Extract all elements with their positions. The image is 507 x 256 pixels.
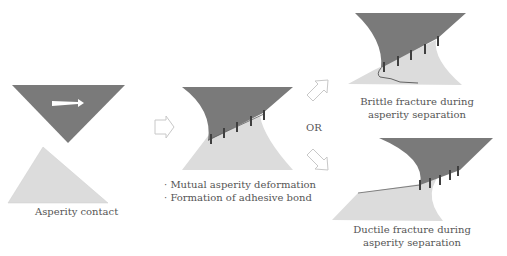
bullet-text: Formation of adhesive bond: [170, 192, 311, 203]
flow-arrow-down-icon: [307, 149, 328, 170]
bullet-char: ·: [164, 179, 167, 190]
flow-arrow-icon: [155, 116, 174, 138]
connector-or-label: OR: [306, 122, 322, 134]
upper-asperity: [12, 85, 125, 143]
caption-brittle-line-1: Brittle fracture during: [357, 96, 477, 108]
stage-ductile: [332, 138, 493, 221]
stage-brittle: [348, 13, 466, 85]
caption-asperity-contact: Asperity contact: [35, 206, 118, 218]
bullet-text: Mutual asperity deformation: [170, 179, 316, 190]
caption-deformation-bullet-1: · Mutual asperity deformation: [164, 179, 316, 191]
stage-deformation: [182, 87, 293, 170]
caption-brittle-line-2: asperity separation: [357, 109, 477, 121]
flow-arrow-up-icon: [307, 80, 328, 101]
upper-asperity: [379, 138, 493, 185]
caption-ductile-line-2: asperity separation: [352, 237, 472, 249]
lower-asperity: [8, 147, 108, 203]
stage-asperity-contact: [8, 85, 125, 203]
caption-deformation-bullet-2: · Formation of adhesive bond: [164, 192, 312, 204]
caption-ductile-line-1: Ductile fracture during: [352, 224, 472, 236]
bullet-char: ·: [164, 192, 167, 203]
